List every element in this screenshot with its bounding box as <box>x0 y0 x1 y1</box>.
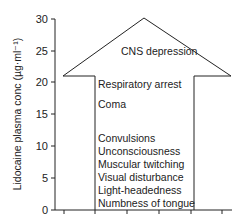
tick-label: 10 <box>36 140 48 152</box>
label-visual-disturbance: Visual disturbance <box>98 171 184 183</box>
y-axis-title: Lidocaine plasma conc (µg·ml⁻¹) <box>11 38 23 191</box>
label-numbness-of-tongue: Numbness of tongue <box>98 197 195 209</box>
label-coma: Coma <box>98 98 126 110</box>
label-muscular-twitching: Muscular twitching <box>98 158 185 170</box>
effect-labels: CNS depression Respiratory arrest Coma C… <box>98 45 198 209</box>
label-unconsciousness: Unconsciousness <box>98 145 180 157</box>
tick-label: 25 <box>36 45 48 57</box>
label-cns-depression: CNS depression <box>121 45 198 57</box>
tick-label: 0 <box>42 204 48 216</box>
tick-label: 30 <box>36 13 48 25</box>
tick-label: 5 <box>42 172 48 184</box>
label-convulsions: Convulsions <box>98 132 155 144</box>
tick-label: 15 <box>36 108 48 120</box>
x-ticks <box>64 210 222 214</box>
y-ticks <box>51 19 55 210</box>
tick-label: 20 <box>36 76 48 88</box>
label-light-headedness: Light-headedness <box>98 184 181 196</box>
label-respiratory-arrest: Respiratory arrest <box>98 78 182 90</box>
toxicity-arrow-diagram: 0 5 10 15 20 25 30 Lidocaine plasma conc… <box>0 0 242 224</box>
y-tick-labels: 0 5 10 15 20 25 30 <box>36 13 48 216</box>
